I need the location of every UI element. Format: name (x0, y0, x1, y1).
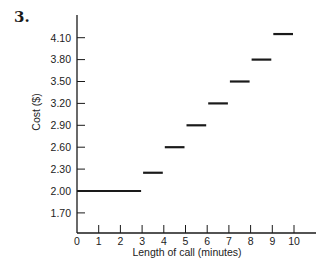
y-axis-title: Cost ($) (30, 93, 42, 130)
x-tick-label: 1 (96, 235, 102, 247)
y-tick-label: 1.70 (51, 207, 72, 219)
x-tick-label: 8 (248, 235, 254, 247)
y-tick-label: 2.30 (51, 163, 72, 175)
x-tick-label: 9 (269, 235, 275, 247)
step-chart: 1.702.002.302.602.903.203.503.804.10 012… (0, 0, 333, 265)
x-axis-ticks: 012345678910 (74, 225, 300, 247)
y-tick-label: 3.50 (51, 75, 72, 87)
x-axis-title: Length of call (minutes) (132, 246, 241, 258)
x-tick-label: 10 (288, 235, 300, 247)
axes (77, 15, 316, 233)
y-tick-label: 3.80 (51, 53, 72, 65)
y-tick-label: 3.20 (51, 97, 72, 109)
y-tick-label: 2.60 (51, 141, 72, 153)
y-tick-label: 2.00 (51, 185, 72, 197)
cost-step-segments (77, 34, 293, 191)
y-tick-label: 4.10 (51, 32, 72, 44)
x-tick-label: 0 (74, 235, 80, 247)
y-tick-label: 2.90 (51, 119, 72, 131)
x-tick-label: 2 (117, 235, 123, 247)
